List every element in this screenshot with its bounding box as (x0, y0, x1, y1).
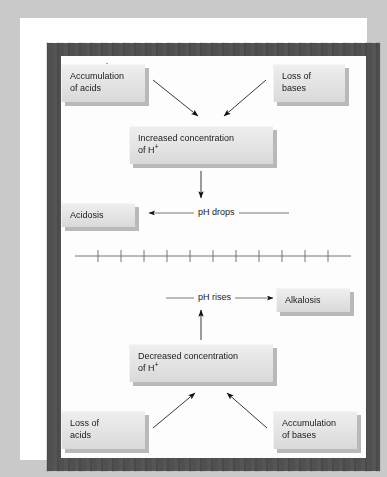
figure-outer-frame: Accumulation of acids Loss of bases Incr… (20, 18, 367, 460)
arrow-loss-bases-to-increased (224, 80, 266, 116)
box-line-1: Alkalosis (285, 295, 342, 307)
box-loss-of-bases[interactable]: Loss of bases (273, 64, 345, 102)
box-line-2: of acids (70, 83, 137, 95)
box-line-1: Accumulation (282, 418, 349, 430)
box-line-2: of H+ (138, 363, 265, 375)
arrow-accum-bases-to-decreased (227, 393, 267, 428)
label-ph-drops: pH drops (194, 207, 239, 217)
box-loss-of-acids[interactable]: Loss of acids (61, 411, 145, 449)
arrow-accum-acids-to-increased (153, 80, 198, 116)
box-line-2-text: of H (138, 145, 155, 155)
box-accumulation-of-acids[interactable]: Accumulation of acids (61, 64, 145, 102)
box-line-1: Loss of (70, 418, 137, 430)
diagram-connectors-layer (61, 56, 366, 458)
box-line-2: bases (282, 83, 337, 95)
box-increased-concentration-of-h[interactable]: Increased concentration of H+ (129, 126, 273, 164)
diagram-canvas: Accumulation of acids Loss of bases Incr… (61, 56, 366, 458)
box-line-2: of H+ (138, 145, 265, 157)
superscript-plus: + (155, 143, 159, 150)
box-line-2-text: of H (138, 363, 155, 373)
box-decreased-concentration-of-h[interactable]: Decreased concentration of H+ (129, 344, 273, 382)
box-acidosis[interactable]: Acidosis (61, 203, 135, 227)
box-line-1: Acidosis (70, 210, 127, 222)
arrow-loss-acids-to-decreased (153, 393, 195, 428)
box-line-2: of bases (282, 430, 349, 442)
box-line-2: acids (70, 430, 137, 442)
label-ph-rises: pH rises (194, 292, 235, 302)
box-line-1: Accumulation (70, 71, 137, 83)
box-alkalosis[interactable]: Alkalosis (276, 288, 350, 312)
box-line-1: Loss of (282, 71, 337, 83)
box-accumulation-of-bases[interactable]: Accumulation of bases (273, 411, 357, 449)
superscript-plus: + (155, 361, 159, 368)
